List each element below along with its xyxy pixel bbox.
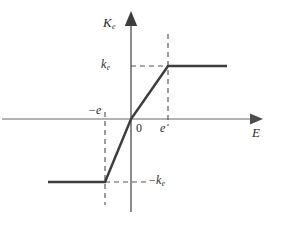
negative-ke-subscript: e [161, 179, 165, 188]
positive-ke-subscript: e [106, 63, 110, 72]
saturation-characteristic-figure: Ke ke −ke −e 0 e E [0, 0, 281, 232]
negative-ke-symbol: −k [148, 173, 161, 187]
x-axis-label: E [252, 126, 260, 139]
positive-e-tick-label: e [160, 122, 165, 134]
negative-e-tick-label: −e [88, 104, 101, 116]
y-axis-label: Ke [103, 16, 116, 31]
figure-canvas [0, 0, 281, 232]
y-axis-label-symbol: K [103, 15, 112, 30]
positive-ke-tick-label: ke [101, 58, 110, 72]
x-axis-arrowhead [250, 114, 263, 125]
y-axis-arrowhead [125, 11, 137, 26]
negative-ke-tick-label: −ke [148, 174, 165, 188]
origin-label: 0 [136, 122, 142, 134]
y-axis-label-subscript: e [112, 22, 116, 31]
